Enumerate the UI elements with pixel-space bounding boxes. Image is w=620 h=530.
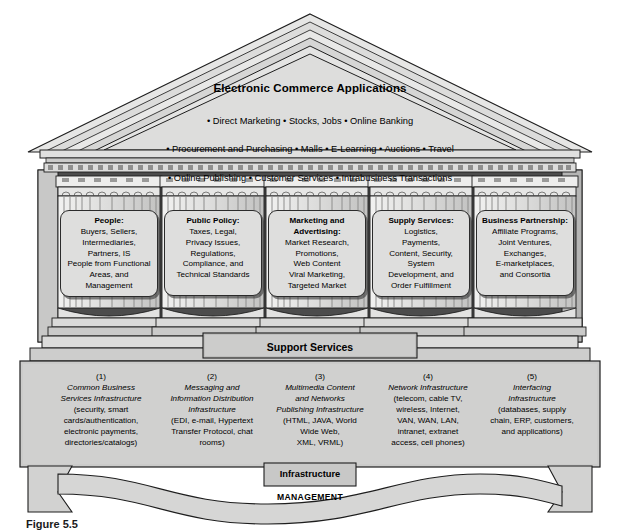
management-label: MANAGEMENT [230,492,390,502]
infrastructure-title: Network Infrastructure [374,382,482,393]
pillar-heading: Public Policy: [168,216,258,227]
pediment-line: • Procurement and Purchasing • Malls • E… [92,142,528,156]
infrastructure-detail: (EDI, e-mail, Hypertext Transfer Protoco… [158,415,266,448]
pillar-card-public-policy: Public Policy: Taxes, Legal, Privacy Iss… [164,210,262,296]
infrastructure-detail: (databases, supply chain, ERP, customers… [478,404,586,437]
infrastructure-detail: (HTML, JAVA, World Wide Web, XML, VRML) [266,415,374,448]
pillar-card-business-partnership: Business Partnership: Affiliate Programs… [476,210,574,296]
infrastructure-column-4: (4) Network Infrastructure (telecom, cab… [374,371,482,448]
infrastructure-number: (4) [374,371,482,382]
pillar-body: Logistics, Payments, Content, Security, … [376,227,466,292]
infrastructure-column-3: (3) Multimedia Content and Networks Publ… [266,371,374,448]
infrastructure-title: Common Business Services Infrastructure [47,382,155,404]
infrastructure-number: (2) [158,371,266,382]
pillar-heading: Business Partnership: [480,216,570,227]
infrastructure-column-2: (2) Messaging and Information Distributi… [158,371,266,448]
infrastructure-column-5: (5) Interfacing Infrastructure (database… [478,371,586,437]
pillar-body: Buyers, Sellers, Intermediaries, Partner… [64,227,154,292]
pillar-body: Affiliate Programs, Joint Ventures, Exch… [480,227,570,281]
pillar-heading: People: [64,216,154,227]
pillar-card-supply-services: Supply Services: Logistics, Payments, Co… [372,210,470,297]
pillar-body: Market Research, Promotions, Web Content… [272,238,362,292]
support-services-label: Support Services [205,337,415,357]
infrastructure-title: Multimedia Content and Networks Publishi… [266,382,374,415]
infrastructure-detail: (telecom, cable TV, wireless, Internet, … [374,393,482,448]
infrastructure-title: Messaging and Information Distribution I… [158,382,266,415]
pediment-line: • Online Publishing • Customer Services … [92,171,528,185]
pillar-body: Taxes, Legal, Privacy Issues, Regulation… [168,227,258,281]
infrastructure-number: (5) [478,371,586,382]
infrastructure-label: Infrastructure [266,465,354,484]
infrastructure-number: (3) [266,371,374,382]
infrastructure-detail: (security, smart cards/authentication, e… [47,404,155,448]
pillar-card-people: People: Buyers, Sellers, Intermediaries,… [60,210,158,297]
pillar-heading: Supply Services: [376,216,466,227]
infrastructure-number: (1) [47,371,155,382]
pediment-line: • Direct Marketing • Stocks, Jobs • Onli… [92,114,528,128]
pillar-heading: Marketing and Advertising: [272,216,362,238]
pediment-application-list: • Direct Marketing • Stocks, Jobs • Onli… [92,100,528,199]
infrastructure-title: Interfacing Infrastructure [478,382,586,404]
pillar-card-marketing-advertising: Marketing and Advertising: Market Resear… [268,210,366,297]
pediment-title: Electronic Commerce Applications [130,81,490,95]
infrastructure-column-1: (1) Common Business Services Infrastruct… [47,371,155,448]
figure-caption: Figure 5.5 [26,518,78,530]
